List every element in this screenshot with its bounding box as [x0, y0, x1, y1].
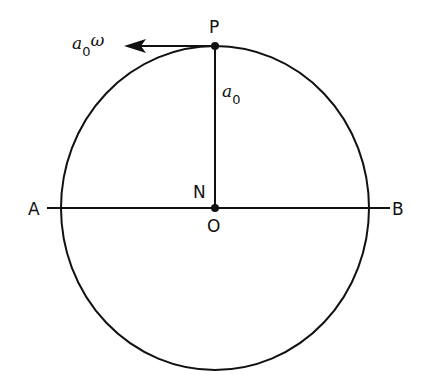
point-O-dot	[211, 204, 219, 212]
label-A: A	[28, 199, 40, 219]
label-N: N	[193, 182, 206, 202]
label-O: O	[207, 216, 220, 236]
label-P: P	[209, 17, 219, 37]
radius-label: a0	[222, 81, 240, 107]
velocity-label: a0ω	[72, 30, 104, 59]
circle-diagram: P N O A B a0 a0ω	[0, 0, 428, 392]
label-B: B	[392, 199, 404, 219]
point-P-dot	[211, 42, 219, 50]
diagram-canvas: P N O A B a0 a0ω	[0, 0, 428, 392]
